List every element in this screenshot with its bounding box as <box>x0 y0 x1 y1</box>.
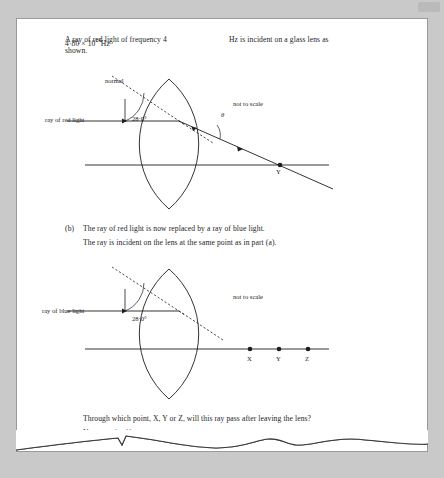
question-line1: Through which point, X, Y or Z, will thi… <box>83 414 311 424</box>
diagram-b-incident-ray-arrow <box>122 309 127 314</box>
exam-page-sheet: 4·80 × 1014Hz A ray of red light of freq… <box>16 18 428 452</box>
diagram-b-ray-label: ray of blue light <box>42 307 84 314</box>
diagram-b-angle-label: 28·0° <box>132 315 147 322</box>
torn-paper-edge <box>0 430 444 478</box>
diagram-b-point-y-dot <box>277 347 282 352</box>
diagram-a-lens-left-surface <box>169 79 199 209</box>
diagram-a-graphic <box>17 63 428 223</box>
diagram-a-angle-label: 28·0° <box>132 115 147 122</box>
diagram-a-exit-ray-arrow <box>237 147 243 152</box>
part-a-stem-prefix: A ray of red light of frequency 4 <box>65 35 167 45</box>
diagram-b-graphic <box>17 267 428 407</box>
diagram-b-not-to-scale-label: not to scale <box>233 293 263 300</box>
diagram-b-point-z-label: Z <box>305 355 309 362</box>
diagram-a-exit-ray <box>213 136 333 189</box>
part-b-marker: (b) <box>65 224 74 234</box>
diagram-b-point-x-dot <box>248 347 253 352</box>
diagram-a-incident-ray-arrow <box>122 119 127 124</box>
part-b-line1: The ray of red light is now replaced by … <box>83 224 265 234</box>
diagram-b-normal-extension <box>179 311 223 340</box>
diagram-a-normal-label: normal <box>105 77 124 84</box>
diagram-a-ray-label: ray of red light <box>45 116 84 123</box>
part-a-stem-line2: shown. <box>65 46 87 56</box>
diagram-b-point-z-dot <box>306 347 311 352</box>
diagram-a-point-y-dot <box>278 163 283 168</box>
diagram-a-not-to-scale-label: not to scale <box>233 100 263 107</box>
diagram-a-point-y-label: Y <box>276 168 281 175</box>
diagram-b-angle-arc <box>125 283 144 311</box>
diagram-b-point-y-label: Y <box>276 355 281 362</box>
part-a-stem-suffix: Hz is incident on a glass lens as <box>229 35 329 45</box>
diagram-b-point-x-label: X <box>247 355 252 362</box>
diagram-a-theta-label: θ <box>221 111 224 118</box>
page-corner-mark <box>418 2 440 12</box>
diagram-b-lens-left-surface <box>169 269 199 399</box>
part-b-line2: The ray is incident on the lens at the s… <box>83 238 277 248</box>
diagram-a-theta-arc <box>217 125 220 139</box>
